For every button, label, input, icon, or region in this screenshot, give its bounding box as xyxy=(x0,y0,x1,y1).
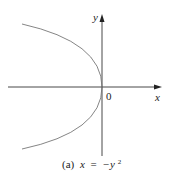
y-axis-arrow-icon xyxy=(100,14,105,22)
y-axis-label: y xyxy=(92,11,98,23)
caption-lhs: x xyxy=(79,158,85,170)
origin-label: 0 xyxy=(106,90,112,102)
parabola-curve xyxy=(22,24,102,149)
caption-rhs: −y xyxy=(103,158,115,170)
parabola-figure: y 0 x (a) x = −y 2 xyxy=(0,0,172,184)
caption-prefix: (a) xyxy=(62,158,75,171)
caption-exponent: 2 xyxy=(118,158,122,166)
x-axis-label: x xyxy=(154,91,160,103)
caption-equals: = xyxy=(91,158,97,170)
figure-caption: (a) x = −y 2 xyxy=(62,158,122,171)
x-axis xyxy=(8,85,162,90)
x-axis-arrow-icon xyxy=(154,85,162,90)
